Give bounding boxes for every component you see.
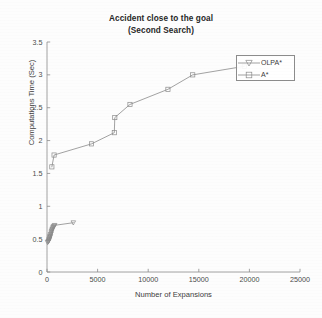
x-tick-label: 10000 — [138, 275, 158, 284]
legend-marker-square-icon — [237, 69, 261, 81]
plot-area: 0500010000150002000025000 00.511.522.533… — [0, 0, 322, 318]
y-tick-label: 1 — [39, 202, 43, 211]
legend-box[interactable]: OLPA* A* — [236, 55, 295, 81]
x-tick-label: 25000 — [290, 275, 310, 284]
legend-label-olpa: OLPA* — [261, 57, 282, 69]
x-tick-label: 5000 — [90, 275, 106, 284]
y-tick-label: 0 — [39, 268, 43, 277]
series-line — [52, 66, 244, 167]
x-tick-label: 0 — [45, 275, 49, 284]
figure-container: Accident close to the goal (Second Searc… — [0, 0, 322, 318]
x-tick-label: 20000 — [239, 275, 259, 284]
legend-entry-astar[interactable]: A* — [237, 69, 296, 81]
x-tick-label: 15000 — [189, 275, 209, 284]
legend-marker-triangle-down-icon — [237, 57, 261, 69]
y-axis-label: Computations Time (Sec) — [27, 18, 36, 188]
series-olpastar — [45, 221, 75, 245]
y-tick-label: 3 — [39, 70, 43, 79]
x-axis-ticks: 0500010000150002000025000 — [45, 269, 310, 284]
y-tick-label: 0.5 — [33, 235, 43, 244]
x-axis-label: Number of Expansions — [47, 290, 300, 299]
legend-entry-olpa[interactable]: OLPA* — [237, 57, 296, 69]
data-series-group — [45, 64, 246, 245]
legend-label-astar: A* — [261, 69, 268, 81]
series-astar — [50, 64, 247, 169]
y-tick-label: 2 — [39, 136, 43, 145]
